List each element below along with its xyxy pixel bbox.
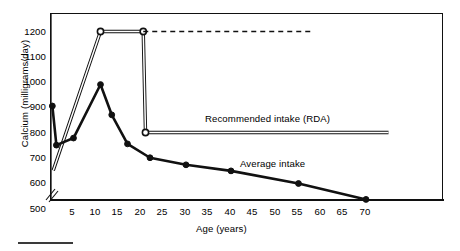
- footer-rule: [18, 242, 73, 244]
- series-line-average: [52, 85, 366, 200]
- plot-canvas: [0, 0, 460, 251]
- data-point-average: [296, 181, 302, 187]
- data-point-average: [54, 142, 60, 148]
- series-line-rda-outline: [53, 32, 388, 171]
- data-point-average: [98, 82, 104, 88]
- data-point-rda: [97, 28, 103, 34]
- data-point-average: [363, 197, 369, 203]
- chart-figure: Calcium (milligrams/day) Age (years) 120…: [0, 0, 460, 251]
- data-point-average: [71, 135, 77, 141]
- data-point-average: [147, 155, 153, 161]
- data-point-average: [228, 168, 234, 174]
- series-line-rda-core: [53, 32, 388, 171]
- data-point-average: [125, 141, 131, 147]
- data-point-average: [109, 112, 115, 118]
- data-point-rda: [142, 129, 148, 135]
- data-point-average: [183, 162, 189, 168]
- data-point-average: [49, 103, 55, 109]
